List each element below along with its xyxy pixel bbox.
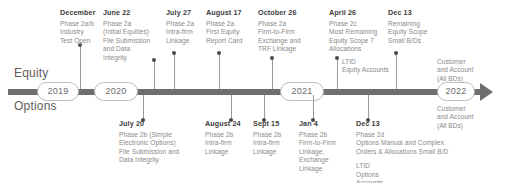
- milestone-date: Dec 13: [356, 119, 448, 128]
- stem-bottom-jan4: [313, 95, 314, 120]
- timeline-infographic: Equity Options 2019 2020 2021 2022 Decem…: [0, 0, 513, 183]
- band-label-options: Options: [14, 99, 57, 113]
- dot-top-august17: [217, 51, 221, 55]
- stem-bottom-sept15: [264, 95, 265, 120]
- milestone-date: August 17: [206, 8, 242, 17]
- stem-top-dec13: [396, 53, 397, 89]
- stem-top-april26: [337, 58, 338, 89]
- year-marker-2019: 2019: [37, 82, 79, 101]
- milestone-bottom-jan4: Jan 4 Phase 2b Firm-to-Firm Linkage, Exc…: [299, 119, 336, 173]
- stem-top-june22: [154, 60, 155, 89]
- year-marker-2020: 2020: [94, 82, 138, 101]
- milestone-body: Phase 2b Firm-to-Firm Linkage, Exchange …: [299, 131, 336, 173]
- milestone-body: Phase 2a/b Industry Test Open: [60, 20, 96, 45]
- milestone-body: Phase 2a First Equity Report Card: [206, 20, 242, 45]
- milestone-top-april26-subnote: LTID Equity Accounts: [342, 58, 389, 75]
- milestone-top-april26: April 26 Phase 2c Most Remaining Equity …: [329, 8, 377, 54]
- stem-top-october26: [272, 58, 273, 89]
- milestone-top-june22: June 22 Phase 2a (Initial Equities) File…: [103, 8, 150, 62]
- milestone-body: Phase 2a (Initial Equities) File Submiss…: [103, 20, 150, 62]
- milestone-top-december: December Phase 2a/b Industry Test Open: [60, 8, 96, 45]
- dot-top-april26: [335, 56, 339, 60]
- milestone-top-dec13: Dec 13 Remaining Equity Scope Small B/Ds: [388, 8, 427, 45]
- timeline-arrow-icon: [480, 83, 493, 101]
- milestone-body: Phase 2c Most Remaining Equity Scope 7 A…: [329, 20, 377, 54]
- end-note-top: Customer and Account (All BDs): [437, 58, 473, 83]
- milestone-date: April 26: [329, 8, 377, 17]
- milestone-top-july27: July 27 Phase 2a Intra-firm Linkage: [166, 8, 194, 45]
- milestone-date: July 20: [119, 119, 179, 128]
- milestone-body: Phase 2b (Simple Electronic Options) Fil…: [119, 131, 179, 165]
- stem-top-december: [80, 45, 81, 89]
- stem-bottom-august24: [231, 95, 232, 120]
- milestone-date: Jan 4: [299, 119, 336, 128]
- milestone-date: October 26: [258, 8, 301, 17]
- year-marker-2021: 2021: [280, 82, 324, 101]
- milestone-body: Phase 2a Firm-to-Firm Exchange and TRF L…: [258, 20, 301, 54]
- band-label-equity: Equity: [14, 66, 49, 80]
- milestone-date: December: [60, 8, 96, 17]
- dot-top-july27: [172, 51, 176, 55]
- stem-top-august17: [219, 53, 220, 89]
- milestone-date: June 22: [103, 8, 150, 17]
- stem-top-july27: [174, 53, 175, 89]
- dot-top-october26: [270, 56, 274, 60]
- milestone-date: July 27: [166, 8, 194, 17]
- stem-bottom-dec13: [368, 95, 369, 120]
- milestone-top-october26: October 26 Phase 2a Firm-to-Firm Exchang…: [258, 8, 301, 54]
- milestone-body: Remaining Equity Scope Small B/Ds: [388, 20, 427, 45]
- milestone-bottom-sept15: Sept 15 Phase 2b Intra-firm Linkage: [253, 119, 281, 156]
- milestone-bottom-august24: August 24 Phase 2b Intra-firm Linkage: [205, 119, 241, 156]
- timeline-axis: [8, 89, 482, 95]
- year-marker-2022: 2022: [437, 82, 475, 101]
- milestone-bottom-dec13: Dec 13 Phase 2d Options Manual and Compl…: [356, 119, 448, 183]
- milestone-date: Dec 13: [388, 8, 427, 17]
- milestone-top-august17: August 17 Phase 2a First Equity Report C…: [206, 8, 242, 45]
- milestone-body: Phase 2a Intra-firm Linkage: [166, 20, 194, 45]
- dot-top-june22: [152, 58, 156, 62]
- milestone-date: Sept 15: [253, 119, 281, 128]
- milestone-date: August 24: [205, 119, 241, 128]
- milestone-bottom-july20: July 20 Phase 2b (Simple Electronic Opti…: [119, 119, 179, 165]
- milestone-body: Phase 2b Intra-firm Linkage: [253, 131, 281, 156]
- dot-top-dec13: [394, 51, 398, 55]
- milestone-body: Phase 2b Intra-firm Linkage: [205, 131, 241, 156]
- milestone-body: Phase 2d Options Manual and Complex Orde…: [356, 131, 448, 156]
- milestone-bottom-dec13-subnote: LTID Options Accounts: [356, 162, 448, 183]
- stem-bottom-july20: [143, 95, 144, 120]
